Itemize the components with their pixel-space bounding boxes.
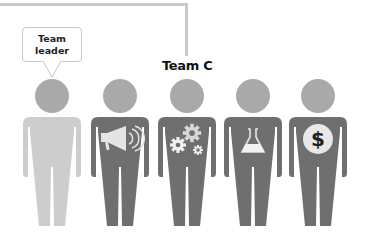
team-leader-bubble: Team leader xyxy=(22,27,82,62)
dollar-icon: $ xyxy=(303,124,333,154)
figure-finance: $ xyxy=(289,79,347,226)
dollar-glyph: $ xyxy=(311,127,325,151)
figure-science xyxy=(224,79,282,226)
figure-marketing xyxy=(91,79,149,226)
figure-engineering xyxy=(158,79,216,226)
figure-team-leader xyxy=(23,79,81,226)
speech-bubble-tail xyxy=(40,60,64,80)
head xyxy=(35,79,69,113)
team-leader-label: Team leader xyxy=(24,33,80,57)
